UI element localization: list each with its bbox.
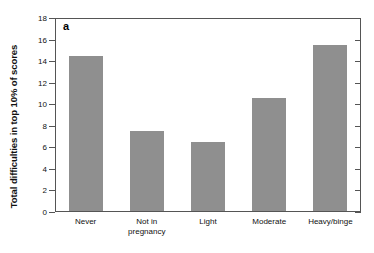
- y-tick-label: 10: [7, 100, 47, 109]
- x-tick-label-line: Heavy/binge: [287, 217, 373, 227]
- y-tick-mark: [49, 18, 55, 19]
- x-tick-label-line: pregnancy: [104, 227, 190, 237]
- y-tick-mark-right: [355, 104, 361, 105]
- y-tick-label: 14: [7, 57, 47, 66]
- panel-label: a: [63, 20, 69, 32]
- y-tick-mark: [49, 83, 55, 84]
- y-tick-mark: [49, 190, 55, 191]
- y-tick-mark-right: [355, 190, 361, 191]
- y-tick-mark-right: [355, 61, 361, 62]
- y-tick-mark-right: [355, 147, 361, 148]
- y-tick-label: 6: [7, 143, 47, 152]
- y-tick-label: 0: [7, 208, 47, 217]
- bar-chart-figure: Total difficulties in top 10% of scores …: [0, 0, 374, 253]
- y-tick-mark: [49, 212, 55, 213]
- y-tick-label: 16: [7, 35, 47, 44]
- y-tick-mark-right: [355, 212, 361, 213]
- y-tick-label: 4: [7, 164, 47, 173]
- bar: [69, 56, 103, 211]
- x-tick-label: Heavy/binge: [287, 217, 373, 227]
- y-tick-mark: [49, 169, 55, 170]
- y-tick-mark-right: [355, 83, 361, 84]
- y-tick-mark: [49, 126, 55, 127]
- bar: [252, 98, 286, 211]
- bar: [313, 45, 347, 211]
- y-tick-label: 2: [7, 186, 47, 195]
- bar: [130, 131, 164, 211]
- y-tick-mark: [49, 147, 55, 148]
- y-tick-mark: [49, 104, 55, 105]
- y-tick-label: 12: [7, 78, 47, 87]
- y-tick-mark: [49, 40, 55, 41]
- y-tick-label: 8: [7, 121, 47, 130]
- y-tick-mark-right: [355, 126, 361, 127]
- y-tick-mark: [49, 61, 55, 62]
- y-tick-mark-right: [355, 169, 361, 170]
- y-tick-mark-right: [355, 40, 361, 41]
- bar: [191, 142, 225, 211]
- y-tick-mark-right: [355, 18, 361, 19]
- y-tick-label: 18: [7, 14, 47, 23]
